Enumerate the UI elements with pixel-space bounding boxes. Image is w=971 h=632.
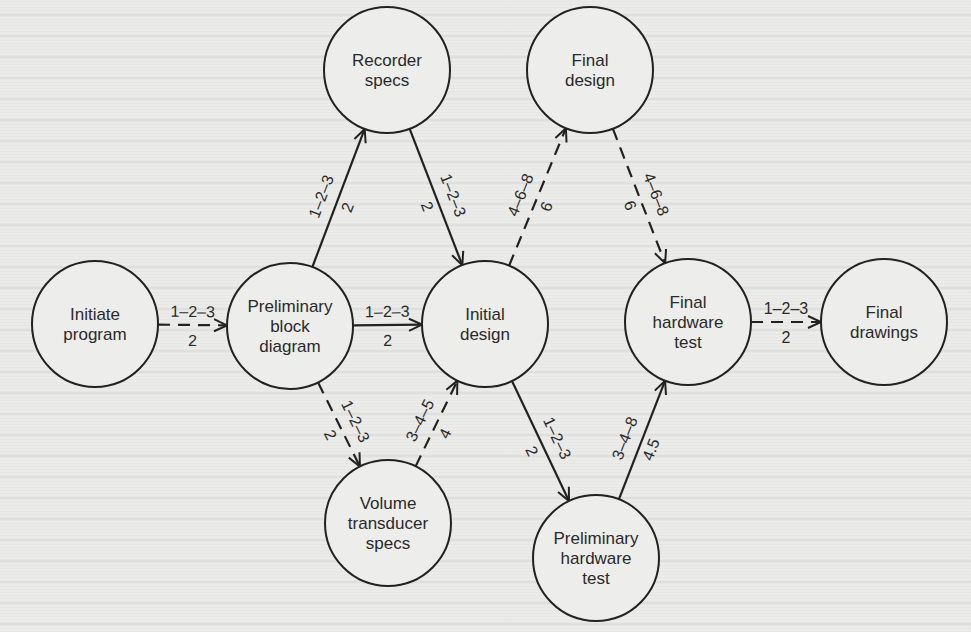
node-final_drawings: Finaldrawings	[821, 259, 947, 385]
node-label-line: Recorder	[352, 51, 422, 70]
edge-time-estimates: 1–2–3	[170, 303, 215, 320]
edge-expected-time: 2	[338, 200, 357, 214]
edge-prelim_hw-to-final_hw: 3–4–84.5	[609, 381, 666, 500]
edge-initiate-to-prelim_block: 1–2–32	[158, 303, 227, 349]
edge-time-estimates: 4–6–8	[504, 171, 537, 219]
edge-time-estimates: 3–4–5	[402, 397, 437, 445]
node-label-line: diagram	[259, 337, 320, 356]
node-final_design: Finaldesign	[527, 7, 653, 133]
event-circle	[527, 7, 653, 133]
edge-time-estimates: 1–2–3	[540, 414, 574, 462]
edge-expected-time: 2	[418, 199, 437, 214]
node-label-line: hardware	[653, 313, 724, 332]
edge-prelim_block-to-volume: 1–2–32	[318, 382, 373, 466]
edge-expected-time: 2	[321, 427, 340, 443]
edge-initial_design-to-prelim_hw: 1–2–32	[512, 381, 574, 501]
node-initial_design: Initialdesign	[422, 261, 548, 387]
node-prelim_hw: Preliminaryhardwaretest	[533, 495, 659, 621]
node-label-line: specs	[366, 534, 410, 553]
node-label-line: Volume	[360, 494, 417, 513]
edge-initial_design-to-final_design: 4–6–86	[504, 128, 566, 266]
node-volume: Volumetransducerspecs	[325, 460, 451, 586]
node-label-line: design	[460, 325, 510, 344]
pert-network-diagram: 1–2–321–2–321–2–321–2–321–2–323–4–544–6–…	[0, 0, 971, 632]
edge-expected-time: 6	[537, 199, 556, 214]
edge-final_hw-to-final_drawings: 1–2–32	[751, 300, 821, 346]
node-recorder: Recorderspecs	[324, 7, 450, 133]
edge-volume-to-initial_design: 3–4–54	[402, 381, 457, 467]
node-final_hw: Finalhardwaretest	[625, 259, 751, 385]
edge-expected-time: 6	[621, 198, 640, 213]
event-circle	[821, 259, 947, 385]
edge-expected-time: 4	[435, 426, 454, 442]
solid-edge-line	[353, 325, 422, 326]
node-prelim_block: Preliminaryblockdiagram	[227, 263, 353, 389]
edge-expected-time: 2	[782, 329, 791, 346]
dashed-edge-line	[158, 325, 227, 326]
node-label-line: Initial	[465, 305, 505, 324]
node-label-line: Initiate	[70, 305, 120, 324]
node-label-line: block	[270, 317, 310, 336]
node-initiate: Initiateprogram	[32, 261, 158, 387]
node-label-line: specs	[365, 71, 409, 90]
edge-expected-time: 2	[188, 332, 197, 349]
node-label-line: hardware	[561, 549, 632, 568]
node-label-line: program	[63, 325, 126, 344]
edge-time-estimates: 1–2–3	[764, 300, 809, 317]
nodes-layer: InitiateprogramPreliminaryblockdiagramRe…	[32, 7, 947, 621]
edge-final_design-to-final_hw: 4–6–86	[613, 129, 672, 264]
node-label-line: design	[565, 71, 615, 90]
arrowhead-icon	[555, 128, 566, 142]
edge-prelim_block-to-initial_design: 1–2–32	[353, 303, 422, 349]
node-label-line: Preliminary	[553, 529, 639, 548]
node-label-line: Final	[866, 303, 903, 322]
edge-expected-time: 2	[383, 332, 392, 349]
edge-expected-time: 2	[522, 443, 541, 458]
edge-time-estimates: 1–2–3	[338, 398, 373, 445]
event-circle	[32, 261, 158, 387]
node-label-line: Preliminary	[247, 297, 333, 316]
node-label-line: Final	[572, 51, 609, 70]
node-label-line: transducer	[348, 514, 429, 533]
edge-prelim_block-to-recorder: 1–2–32	[305, 129, 365, 267]
node-label-line: test	[582, 569, 610, 588]
node-label-line: test	[674, 333, 702, 352]
event-circle	[324, 7, 450, 133]
node-label-line: Final	[670, 293, 707, 312]
edge-recorder-to-initial_design: 1–2–32	[410, 129, 470, 265]
event-circle	[422, 261, 548, 387]
node-label-line: drawings	[850, 323, 918, 342]
edge-time-estimates: 1–2–3	[365, 303, 410, 320]
